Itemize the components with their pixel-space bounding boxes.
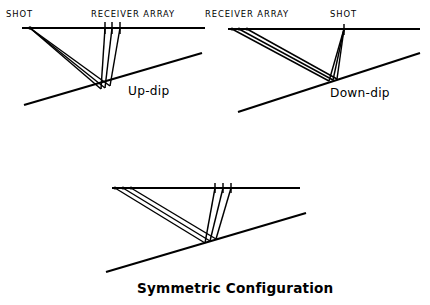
up-dip-shot-label: SHOT bbox=[6, 9, 33, 19]
symmetric-shot-marker bbox=[113, 186, 116, 189]
panel-up-dip: SHOT RECEIVER ARRAY Up-dip bbox=[6, 9, 205, 105]
down-dip-receiver-marker bbox=[245, 27, 248, 30]
panel-symmetric: Symmetric Configuration bbox=[106, 183, 333, 296]
symmetric-shot-marker bbox=[129, 186, 132, 189]
down-dip-receiver-marker bbox=[230, 27, 233, 30]
up-dip-reflector-line bbox=[24, 53, 202, 105]
down-dip-receiver-marker bbox=[237, 27, 240, 30]
panel-down-dip: RECEIVER ARRAY SHOT Down-dip bbox=[205, 9, 420, 112]
up-dip-panel-label: Up-dip bbox=[128, 84, 169, 98]
symmetric-downgoing-ray bbox=[123, 188, 210, 241]
symmetric-upgoing-ray bbox=[216, 188, 231, 239]
symmetric-upgoing-ray bbox=[210, 188, 223, 241]
down-dip-panel-label: Down-dip bbox=[330, 86, 390, 100]
down-dip-reflector-line bbox=[238, 53, 420, 112]
symmetric-caption-label: Symmetric Configuration bbox=[137, 280, 333, 296]
seismic-configuration-diagram: SHOT RECEIVER ARRAY Up-dip RECEIVER ARRA… bbox=[0, 0, 430, 305]
up-dip-downgoing-ray bbox=[30, 28, 110, 86]
figure-root: SHOT RECEIVER ARRAY Up-dip RECEIVER ARRA… bbox=[0, 0, 430, 305]
symmetric-reflector-line bbox=[106, 213, 306, 272]
down-dip-upgoing-ray bbox=[239, 29, 333, 80]
symmetric-downgoing-ray bbox=[115, 188, 205, 243]
down-dip-upgoing-ray bbox=[232, 29, 329, 81]
down-dip-upgoing-ray bbox=[247, 29, 337, 79]
symmetric-downgoing-ray bbox=[131, 188, 216, 239]
down-dip-shot-label: SHOT bbox=[330, 9, 357, 19]
up-dip-receiver-array-label: RECEIVER ARRAY bbox=[91, 9, 175, 19]
down-dip-receiver-array-label: RECEIVER ARRAY bbox=[205, 9, 289, 19]
up-dip-shot-marker bbox=[28, 26, 31, 29]
up-dip-upgoing-ray bbox=[101, 28, 105, 89]
symmetric-shot-marker bbox=[121, 186, 124, 189]
